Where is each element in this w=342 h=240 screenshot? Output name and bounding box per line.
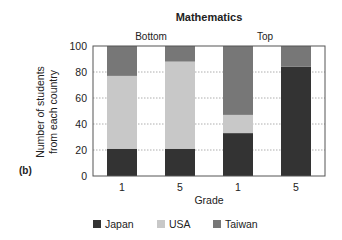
group-label-bottom: Bottom (135, 31, 167, 42)
x-tick-labels: 1515 (119, 181, 299, 193)
y-tick-label: 100 (69, 40, 87, 52)
legend-swatch (213, 220, 221, 228)
bar-segment-japan (165, 149, 195, 176)
legend-label: Taiwan (225, 218, 258, 230)
bar-segment-japan (107, 149, 137, 176)
stacked-bar-chart: Mathematics Bottom Top 020406080100 1515… (0, 0, 342, 240)
bar-segment-taiwan (223, 46, 253, 115)
bars (107, 46, 311, 176)
x-tick-label: 5 (293, 181, 299, 193)
legend-item-usa: USA (157, 218, 191, 230)
legend-item-taiwan: Taiwan (213, 218, 258, 230)
x-axis-label: Grade (194, 194, 223, 206)
legend-item-japan: Japan (93, 218, 134, 230)
group-label-top: Top (257, 31, 274, 42)
legend-swatch (157, 220, 165, 228)
legend: JapanUSATaiwan (93, 218, 258, 230)
bar-segment-japan (223, 133, 253, 176)
x-tick-label: 1 (235, 181, 241, 193)
legend-label: USA (169, 218, 191, 230)
y-tick-labels: 020406080100 (69, 40, 87, 182)
y-tick-label: 20 (75, 144, 87, 156)
chart-title: Mathematics (176, 11, 243, 23)
legend-swatch (93, 220, 101, 228)
bar-segment-taiwan (165, 46, 195, 62)
y-tick-label: 40 (75, 118, 87, 130)
y-axis-label-line1: Number of students (34, 66, 46, 158)
y-tick-label: 0 (81, 170, 87, 182)
bar-segment-usa (107, 76, 137, 149)
y-axis-label-line2: from each country (47, 69, 59, 154)
bar-segment-japan (281, 67, 311, 176)
x-tick-label: 5 (177, 181, 183, 193)
bar-segment-usa (165, 62, 195, 149)
y-tick-label: 60 (75, 92, 87, 104)
bar-segment-taiwan (281, 46, 311, 67)
bar-segment-taiwan (107, 46, 137, 76)
panel-label: (b) (19, 165, 32, 176)
x-tick-label: 1 (119, 181, 125, 193)
y-tick-label: 80 (75, 66, 87, 78)
legend-label: Japan (105, 218, 134, 230)
bar-segment-usa (223, 115, 253, 133)
